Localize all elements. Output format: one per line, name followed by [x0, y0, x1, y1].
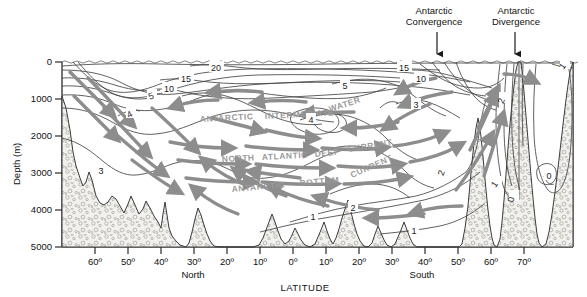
contour-label: 1: [411, 226, 416, 236]
contour-label: 10: [416, 74, 426, 84]
x-axis-ticks: [95, 247, 524, 254]
contour-label: 3: [98, 166, 103, 176]
hemisphere-label-south: South: [392, 269, 452, 280]
y-tick-label: 2000: [12, 130, 52, 141]
contour-label: 15: [399, 63, 409, 73]
label-antarctic-bottom-current-2: BOTTOM: [299, 175, 339, 188]
x-tick-label: 30º: [377, 256, 407, 267]
antarctic-divergence-line1: Antarctic: [466, 5, 566, 16]
x-tick-label: 70º: [509, 256, 539, 267]
label-antarctic-intermediate-water-1: ANTARCTIC: [200, 111, 254, 124]
x-tick-label: 20º: [344, 256, 374, 267]
contour-label: 0: [546, 171, 551, 181]
x-tick-label: 30º: [179, 256, 209, 267]
x-tick-label: 20º: [212, 256, 242, 267]
contour-label: 1: [310, 212, 315, 222]
label-antarctic-intermediate-water-2: INTERMEDIATE: [265, 107, 335, 121]
label-north-atlantic-deep-current-3: DEEP: [314, 146, 340, 159]
contour-label: 2: [350, 203, 355, 213]
y-tick-label: 4000: [12, 204, 52, 215]
x-tick-label: 10º: [311, 256, 341, 267]
label-north-atlantic-deep-current-1: NORTH: [222, 152, 255, 164]
contour-label: 20: [211, 63, 221, 73]
annotation-arrows: [437, 32, 515, 54]
x-tick-label: 60º: [80, 256, 110, 267]
hemisphere-label-north: North: [163, 269, 223, 280]
antarctic-divergence-line2: Divergence: [466, 16, 566, 27]
contour-label: 5: [342, 81, 347, 91]
y-axis-title: Depth (m): [11, 143, 22, 185]
x-tick-label: 0º: [278, 256, 308, 267]
y-tick-label: 0: [22, 56, 52, 67]
x-tick-label: 10º: [245, 256, 275, 267]
x-axis-title: LATITUDE: [255, 282, 355, 293]
x-tick-label: 50º: [113, 256, 143, 267]
contour-label: 3: [413, 100, 418, 110]
y-tick-label: 5000: [12, 241, 52, 252]
x-tick-label: 60º: [476, 256, 506, 267]
y-tick-label: 1000: [12, 93, 52, 104]
contour-label: 15: [181, 74, 191, 84]
x-tick-label: 50º: [443, 256, 473, 267]
y-axis-ticks: [55, 62, 62, 247]
antarctic-divergence-annotation: Antarctic Divergence: [466, 5, 566, 27]
x-tick-label: 40º: [146, 256, 176, 267]
figure-canvas: ANTARCTIC INTERMEDIATE WATER NORTH ATLAN…: [0, 0, 587, 297]
contour-label: 4: [308, 115, 313, 125]
label-north-atlantic-deep-current-4: CURRENT: [347, 137, 393, 154]
ocean-cross-section-figure: ANTARCTIC INTERMEDIATE WATER NORTH ATLAN…: [0, 0, 587, 297]
contour-label: 10: [164, 84, 174, 94]
x-tick-label: 40º: [410, 256, 440, 267]
label-north-atlantic-deep-current-2: ATLANTIC: [262, 150, 309, 162]
